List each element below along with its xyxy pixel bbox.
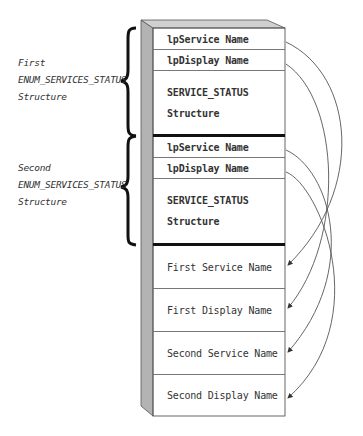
cell-lpservice-2: lpService Name — [153, 137, 285, 158]
cell-service-status-2: SERVICE_STATUSStructure — [153, 179, 285, 246]
cell-text: lpDisplay Name — [167, 163, 249, 174]
cell-service-status-1: SERVICE_STATUSStructure — [153, 71, 285, 137]
cell-text: First Display Name — [167, 305, 272, 316]
group-label-first-line1: First — [18, 57, 45, 68]
arrow-first-service — [286, 42, 342, 265]
group-label-first-line2: ENUM_SERVICES_STATUS — [18, 74, 126, 85]
cell-text: SERVICE_STATUS — [167, 82, 249, 103]
cell-first-service-name: First Service Name — [153, 246, 285, 289]
group-label-second-line3: Structure — [18, 196, 67, 207]
group-label-first-line3: Structure — [18, 91, 67, 102]
group-label-second-line1: Second — [18, 162, 51, 173]
cell-text: SERVICE_STATUS — [167, 190, 249, 211]
group-label-second-line2: ENUM_SERVICES_STATUS — [18, 179, 126, 190]
cell-lpdisplay-1: lpDisplay Name — [153, 50, 285, 71]
cell-text: Structure — [167, 103, 249, 124]
arrow-first-display — [286, 64, 329, 308]
cell-lpdisplay-2: lpDisplay Name — [153, 158, 285, 179]
cell-text: Structure — [167, 211, 249, 232]
cell-text: Second Service Name — [167, 348, 278, 359]
cell-second-display-name: Second Display Name — [153, 375, 285, 416]
cell-text: lpService Name — [167, 34, 249, 45]
cell-second-service-name: Second Service Name — [153, 332, 285, 375]
cell-text: First Service Name — [167, 262, 272, 273]
cell-first-display-name: First Display Name — [153, 289, 285, 332]
arrow-second-service — [286, 150, 331, 352]
brace-second — [121, 136, 136, 245]
cell-lpservice-1: lpService Name — [153, 29, 285, 50]
cell-text: lpDisplay Name — [167, 55, 249, 66]
top-face — [141, 20, 285, 28]
cell-text: lpService Name — [167, 142, 249, 153]
cell-text: Second Display Name — [167, 390, 278, 401]
side-face — [141, 20, 153, 416]
